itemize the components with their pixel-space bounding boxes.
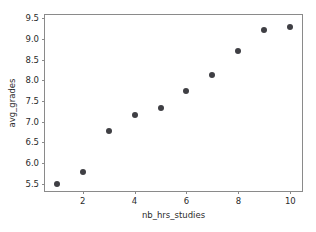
scatter-point bbox=[106, 128, 112, 134]
x-axis-label: nb_hrs_studies bbox=[44, 210, 303, 220]
y-axis-tick-label: 7.0 bbox=[25, 117, 39, 127]
x-axis-tick-label: 6 bbox=[184, 196, 189, 206]
x-axis-tick bbox=[186, 191, 187, 194]
x-axis-tick-label: 10 bbox=[285, 196, 296, 206]
y-axis-tick-label: 5.5 bbox=[25, 179, 39, 189]
x-axis-tick bbox=[135, 191, 136, 194]
y-axis-tick-label: 9.0 bbox=[25, 34, 39, 44]
y-axis-tick-label: 7.5 bbox=[25, 96, 39, 106]
y-axis-label-text: avg_grades bbox=[7, 78, 17, 127]
y-axis-label: avg_grades bbox=[6, 14, 18, 192]
y-axis-tick-label: 6.5 bbox=[25, 137, 39, 147]
x-axis-tick-label: 8 bbox=[236, 196, 241, 206]
y-axis-tick-label: 8.0 bbox=[25, 75, 39, 85]
plot-axes-area: 5.56.06.57.07.58.08.59.09.5 246810 bbox=[44, 14, 303, 192]
data-points-layer bbox=[45, 15, 302, 191]
scatter-point bbox=[261, 27, 267, 33]
scatter-point bbox=[158, 105, 164, 111]
scatter-plot-figure: 5.56.06.57.07.58.08.59.09.5 246810 avg_g… bbox=[0, 0, 316, 232]
y-axis-tick-label: 8.5 bbox=[25, 55, 39, 65]
scatter-point bbox=[80, 169, 86, 175]
scatter-point bbox=[209, 72, 215, 78]
x-axis-tick bbox=[290, 191, 291, 194]
scatter-point bbox=[235, 48, 241, 54]
x-axis-tick bbox=[83, 191, 84, 194]
scatter-point bbox=[54, 181, 60, 187]
x-axis-tick bbox=[238, 191, 239, 194]
x-axis-tick-label: 2 bbox=[80, 196, 85, 206]
scatter-point bbox=[183, 88, 189, 94]
scatter-point bbox=[132, 112, 138, 118]
scatter-point bbox=[287, 24, 293, 30]
y-axis-tick-label: 6.0 bbox=[25, 158, 39, 168]
y-axis-tick-label: 9.5 bbox=[25, 13, 39, 23]
x-axis-tick-label: 4 bbox=[132, 196, 137, 206]
